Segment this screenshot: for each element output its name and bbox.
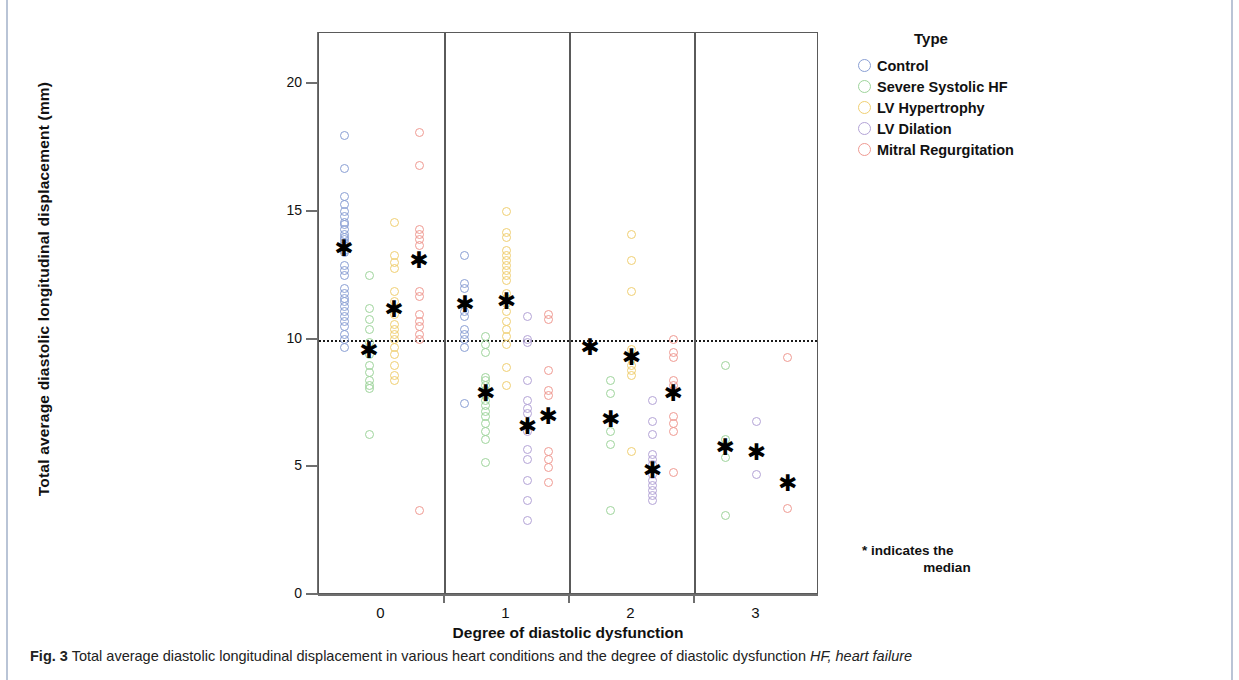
data-point [752,470,761,479]
median-marker: ✱ [601,407,620,430]
data-point [460,399,469,408]
data-point [783,353,792,362]
data-point [544,478,553,487]
data-point [523,445,532,454]
figure-page: Total average diastolic longitudinal dis… [0,0,1239,680]
data-point [502,207,511,216]
x-tick-label-1: 1 [476,604,536,621]
legend-swatch-circle-icon [858,143,871,156]
data-point [390,287,399,296]
panel-degree-3: ✱✱✱ [694,33,819,593]
data-point [415,335,424,344]
data-point [481,458,490,467]
data-point [627,447,636,456]
legend-item-label: Control [877,58,929,74]
legend-item-label: LV Dilation [877,121,952,137]
data-point [669,335,678,344]
caption-body: Total average diastolic longitudinal dis… [72,648,806,664]
median-marker: ✱ [778,471,797,494]
median-marker: ✱ [334,236,353,259]
data-point [340,131,349,140]
median-marker: ✱ [476,382,495,405]
data-point [340,271,349,280]
data-point [365,304,374,313]
median-marker: ✱ [664,382,683,405]
legend-items: ControlSevere Systolic HFLV HypertrophyL… [858,55,1188,160]
median-marker: ✱ [409,249,428,272]
scatter-figure: Total average diastolic longitudinal dis… [0,0,1239,628]
data-point [544,315,553,324]
data-point [648,430,657,439]
data-point [648,417,657,426]
legend-item-severe-systolic-hf: Severe Systolic HF [858,76,1188,97]
data-point [783,504,792,513]
data-point [390,350,399,359]
legend-title: Type [914,30,1188,47]
data-point [390,218,399,227]
y-tick-label-0: 0 [262,585,302,601]
data-point [415,161,424,170]
legend-item-mitral-regurgitation: Mitral Regurgitation [858,139,1188,160]
y-tick-label-5: 5 [262,457,302,473]
data-point [606,440,615,449]
data-point [669,468,678,477]
data-point [627,230,636,239]
data-point [415,128,424,137]
data-point [544,463,553,472]
y-tick-15 [306,210,318,212]
data-point [460,251,469,260]
legend-swatch-circle-icon [858,80,871,93]
data-point [544,391,553,400]
x-tick-3 [693,594,695,603]
data-point [721,511,730,520]
data-point [502,381,511,390]
data-point [523,338,532,347]
data-point [721,361,730,370]
median-marker: ✱ [622,346,641,369]
data-point [415,292,424,301]
data-point [365,384,374,393]
median-note-line2: median [862,560,1032,577]
median-marker: ✱ [455,292,474,315]
y-tick-label-20: 20 [262,74,302,90]
data-point [544,366,553,375]
legend-item-lv-dilation: LV Dilation [858,118,1188,139]
data-point [523,312,532,321]
median-marker: ✱ [384,297,403,320]
x-tick-label-3: 3 [726,604,786,621]
median-marker: ✱ [747,440,766,463]
median-marker: ✱ [580,336,599,359]
y-tick-20 [306,82,318,84]
data-point [606,376,615,385]
data-point [606,506,615,515]
median-marker: ✱ [497,290,516,313]
data-point [365,430,374,439]
median-marker: ✱ [359,338,378,361]
panel-degree-2: ✱✱✱✱✱ [569,33,694,593]
data-point [365,315,374,324]
data-point [340,343,349,352]
data-point [365,271,374,280]
legend-item-label: Mitral Regurgitation [877,142,1014,158]
median-marker: ✱ [716,435,735,458]
data-point [502,340,511,349]
data-point [523,376,532,385]
data-point [481,348,490,357]
y-tick-5 [306,465,318,467]
data-point [669,353,678,362]
legend: Type ControlSevere Systolic HFLV Hypertr… [858,30,1188,160]
y-tick-label-10: 10 [262,330,302,346]
median-marker: ✱ [643,458,662,481]
data-point [648,496,657,505]
data-point [523,496,532,505]
figure-caption: Fig. 3 Total average diastolic longitudi… [30,648,1210,664]
data-point [606,389,615,398]
x-tick-1 [443,594,445,603]
data-point [415,506,424,515]
data-point [523,516,532,525]
data-point [460,343,469,352]
data-point [627,256,636,265]
data-point [502,276,511,285]
legend-item-label: LV Hypertrophy [877,100,985,116]
panel-degree-0: ✱✱✱✱ [319,33,444,593]
